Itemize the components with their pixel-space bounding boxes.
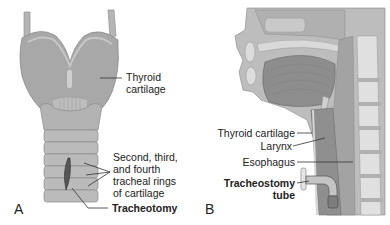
panel-b-sagittal-section: Thyroid cartilage Larynx Esophagus Trach… xyxy=(195,0,390,225)
label-tracheostomy-tube: Tracheostomy tube xyxy=(195,177,295,201)
label-line: Tracheostomy xyxy=(195,177,295,189)
label-line: tube xyxy=(195,189,295,201)
label-line: and fourth xyxy=(113,163,178,175)
label-thyroid-cartilage-b: Thyroid cartilage xyxy=(195,127,295,139)
panel-letter-a: A xyxy=(14,201,23,217)
panel-letter-b: B xyxy=(205,201,214,217)
label-line: cartilage xyxy=(126,83,166,95)
label-line: Second, third, xyxy=(113,151,178,163)
label-line: Thyroid xyxy=(126,71,166,83)
label-line: of cartilage xyxy=(113,187,178,199)
label-thyroid-cartilage-a: Thyroid cartilage xyxy=(126,71,166,95)
label-tracheal-rings: Second, third, and fourth tracheal rings… xyxy=(113,151,178,199)
label-line: tracheal rings xyxy=(113,175,178,187)
panel-a-larynx-anterior: Thyroid cartilage Second, third, and fou… xyxy=(0,0,195,225)
label-esophagus: Esophagus xyxy=(195,156,295,168)
label-larynx: Larynx xyxy=(195,140,292,152)
label-tracheotomy: Tracheotomy xyxy=(112,202,177,214)
